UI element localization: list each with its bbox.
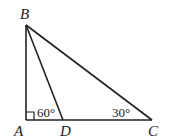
label-b: B [20, 6, 29, 22]
label-d: D [59, 123, 71, 139]
angle-d-label: 60° [37, 105, 55, 120]
angle-c-label: 30° [112, 105, 130, 120]
label-a: A [13, 123, 24, 139]
right-angle-mark [26, 112, 34, 120]
label-c: C [148, 123, 159, 139]
triangle-diagram: B A D C 60° 30° [0, 0, 171, 140]
